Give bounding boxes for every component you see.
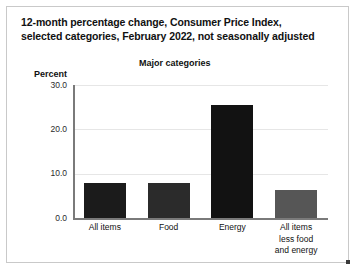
- chart-title-line-2: selected categories, February 2022, not …: [21, 30, 336, 44]
- x-tick-label-line: Food: [137, 222, 201, 234]
- plot-area: [73, 85, 328, 218]
- footnote-mark: [346, 260, 350, 264]
- x-tick-label-all-items: All items: [73, 222, 137, 234]
- x-tick-label-line: less food: [264, 234, 328, 246]
- x-tick-label-line: Energy: [201, 222, 265, 234]
- x-tick-label-line: All items: [73, 222, 137, 234]
- y-tick-label: 20.0: [50, 124, 67, 134]
- chart-title: 12-month percentage change, Consumer Pri…: [21, 16, 336, 43]
- chart-figure: 12-month percentage change, Consumer Pri…: [6, 6, 349, 263]
- x-tick-label-line: All items: [264, 222, 328, 234]
- x-tick-label-energy: Energy: [201, 222, 265, 234]
- y-tick-label: 0.0: [55, 213, 67, 223]
- x-axis-line: [73, 218, 328, 220]
- x-tick-label-line: and energy: [264, 245, 328, 257]
- y-tick-label: 10.0: [50, 168, 67, 178]
- x-axis-tick-labels: All itemsFoodEnergyAll itemsless foodand…: [73, 222, 328, 270]
- chart-title-line-1: 12-month percentage change, Consumer Pri…: [21, 16, 336, 30]
- bar-all-items-less-food-and-energy[interactable]: [275, 190, 317, 218]
- chart-subtitle: Major categories: [139, 58, 211, 68]
- y-tick-label: 30.0: [50, 80, 67, 90]
- bar-food[interactable]: [148, 183, 190, 218]
- x-tick-label-food: Food: [137, 222, 201, 234]
- y-axis-label: Percent: [34, 69, 67, 79]
- x-tick-label-all-items-less-food-and-energy: All itemsless foodand energy: [264, 222, 328, 257]
- bar-series: [73, 85, 328, 218]
- bar-energy[interactable]: [211, 105, 253, 218]
- bar-all-items[interactable]: [84, 183, 126, 218]
- y-axis-tick-labels: 0.010.020.030.0: [29, 85, 67, 218]
